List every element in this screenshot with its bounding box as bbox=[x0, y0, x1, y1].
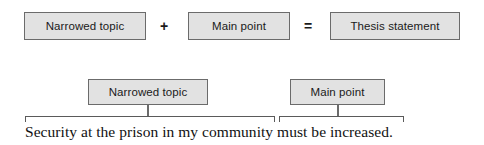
example-box-main-point: Main point bbox=[290, 79, 385, 105]
plus-operator: + bbox=[156, 19, 172, 33]
formula-box-main-point: Main point bbox=[188, 12, 290, 40]
example-sentence: Security at the prison in my community m… bbox=[25, 123, 393, 141]
plus-operator-symbol: + bbox=[160, 18, 168, 34]
equals-operator: = bbox=[300, 19, 316, 33]
thesis-formula-diagram: Narrowed topic + Main point = Thesis sta… bbox=[0, 0, 484, 145]
formula-box-main-point-label: Main point bbox=[212, 20, 266, 32]
example-box-narrowed-topic-label: Narrowed topic bbox=[109, 86, 188, 98]
example-box-narrowed-topic: Narrowed topic bbox=[88, 79, 208, 105]
bracket-narrowed-topic-span bbox=[25, 116, 275, 122]
formula-box-thesis-statement: Thesis statement bbox=[330, 12, 460, 40]
equals-operator-symbol: = bbox=[304, 18, 312, 34]
formula-box-narrowed-topic: Narrowed topic bbox=[24, 12, 146, 40]
example-sentence-text: Security at the prison in my community m… bbox=[25, 123, 393, 140]
bracket-main-point-span bbox=[279, 116, 404, 122]
example-box-main-point-label: Main point bbox=[310, 86, 364, 98]
formula-box-narrowed-topic-label: Narrowed topic bbox=[46, 20, 125, 32]
formula-box-thesis-statement-label: Thesis statement bbox=[350, 20, 439, 32]
